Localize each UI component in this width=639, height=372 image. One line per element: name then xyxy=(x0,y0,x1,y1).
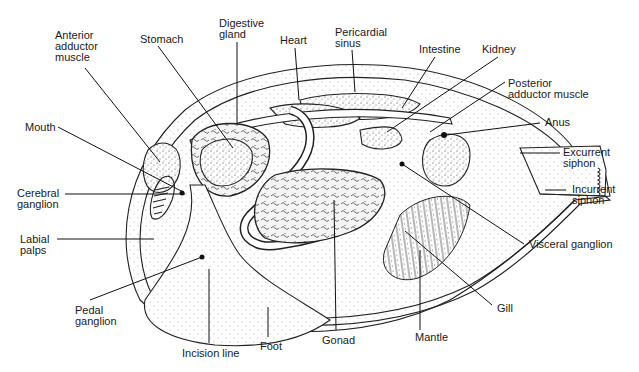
label-kidney: Kidney xyxy=(482,44,516,55)
label-visceral-ganglion: Visceral ganglion xyxy=(529,239,613,250)
label-labial-palps: Labial palps xyxy=(20,234,49,256)
label-anus: Anus xyxy=(545,117,570,128)
clam-anatomy-diagram: Anterior adductor muscle Stomach Digesti… xyxy=(0,0,639,372)
label-gonad: Gonad xyxy=(322,335,355,346)
label-mouth: Mouth xyxy=(25,122,56,133)
label-posterior-adductor-muscle: Posterior adductor muscle xyxy=(508,78,589,100)
label-gill: Gill xyxy=(497,303,513,314)
label-incision-line: Incision line xyxy=(182,348,239,359)
label-stomach: Stomach xyxy=(140,34,183,45)
label-mantle: Mantle xyxy=(415,332,448,343)
label-incurrent-siphon: Incurrent siphon xyxy=(572,184,615,206)
label-digestive-gland: Digestive gland xyxy=(219,18,264,40)
label-pedal-ganglion: Pedal ganglion xyxy=(75,305,117,327)
kidney-shape xyxy=(360,127,402,149)
label-cerebral-ganglion: Cerebral ganglion xyxy=(17,188,59,210)
label-heart: Heart xyxy=(280,35,307,46)
label-excurrent-siphon: Excurrent siphon xyxy=(563,147,610,169)
label-anterior-adductor-muscle: Anterior adductor muscle xyxy=(55,30,98,63)
label-pericardial-sinus: Pericardial sinus xyxy=(335,27,387,49)
label-intestine: Intestine xyxy=(419,44,461,55)
label-foot: Foot xyxy=(260,341,282,352)
